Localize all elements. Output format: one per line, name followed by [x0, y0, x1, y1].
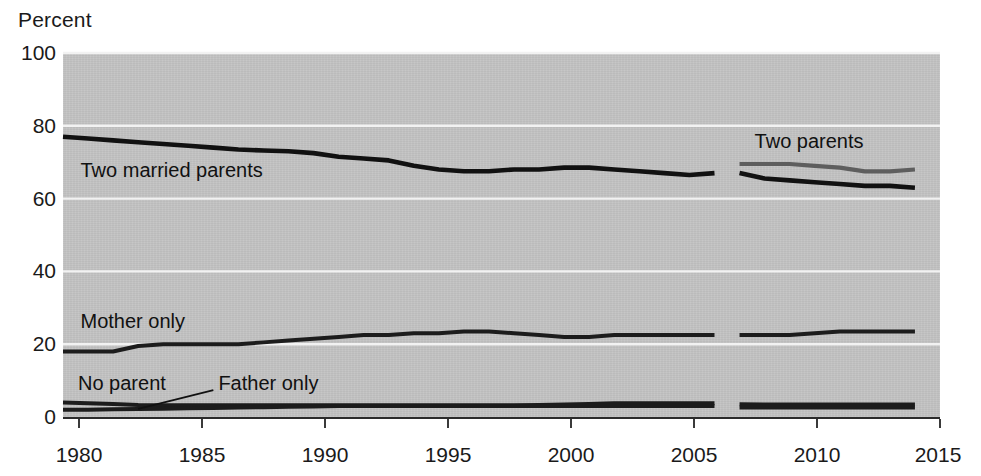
- series-label-mother-only: Mother only: [81, 310, 186, 333]
- series-line-mother-only-seg0: [63, 331, 714, 351]
- series-label-father-only: Father only: [218, 372, 318, 395]
- series-line-two-parents-seg0: [740, 164, 915, 171]
- series-label-two-parents: Two parents: [755, 130, 864, 153]
- series-line-two-married-parents-seg1: [740, 173, 915, 188]
- chart-container: Percent 0 20 40 60 80 100 1980 1985 1990…: [0, 0, 981, 476]
- series-layer: [0, 0, 981, 476]
- series-label-two-married-parents: Two married parents: [81, 159, 263, 182]
- series-line-mother-only-seg1: [740, 331, 915, 335]
- series-label-no-parent: No parent: [78, 372, 166, 395]
- gridlines: [63, 53, 940, 344]
